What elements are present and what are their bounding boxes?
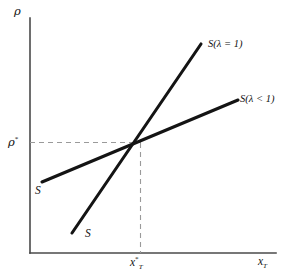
curve-origin-label-steep: S	[85, 228, 91, 240]
curve-endpoint-label-lambda-equals-one: S(λ = 1)	[208, 39, 242, 50]
x-axis-label: xT	[258, 256, 267, 270]
supply-curve-lambda-equals-one	[72, 44, 201, 233]
x-tick-label-equilibrium-quantity: x*T	[130, 256, 143, 271]
curve-endpoint-label-lambda-less-than-one: S(λ < 1)	[240, 94, 274, 105]
subscript-t-glyph: T	[263, 262, 267, 270]
y-axis-label: ρ	[14, 6, 21, 18]
supply-curve-figure: ρ ρ* x*T xT S S S(λ = 1) S(λ < 1)	[0, 0, 291, 278]
asterisk-glyph: *	[135, 255, 139, 263]
asterisk-glyph: *	[15, 135, 19, 143]
supply-curve-lambda-less-than-one	[42, 100, 238, 182]
plot-area	[0, 0, 291, 278]
rho-glyph: ρ	[8, 135, 15, 149]
curve-origin-label-flat: S	[35, 185, 41, 197]
subscript-t-glyph: T	[139, 263, 143, 271]
y-tick-label-equilibrium-price: ρ*	[8, 136, 18, 148]
